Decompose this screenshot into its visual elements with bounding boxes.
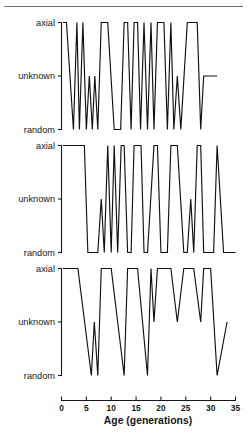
panel-1: axial unknown random <box>18 18 217 135</box>
x-tick-label-25: 25 <box>181 403 191 413</box>
panel-2-ylabel-random: random <box>24 248 55 258</box>
panel-2-ylabel-axial: axial <box>36 141 55 151</box>
panel-3-ylabel-unknown: unknown <box>18 317 55 327</box>
panel-2-ylabel-unknown: unknown <box>18 194 55 204</box>
x-tick-label-15: 15 <box>131 403 141 413</box>
x-tick-label-0: 0 <box>59 403 64 413</box>
panel-3-ylabel-random: random <box>24 371 55 381</box>
panel-3: axial unknown random <box>18 264 227 381</box>
x-tick-label-20: 20 <box>156 403 166 413</box>
panel-2-data-trace <box>63 146 236 253</box>
panel-1-ylabel-unknown: unknown <box>18 71 55 81</box>
x-axis: 05101520253035 Age (generations) <box>59 397 240 427</box>
panel-3-data-trace <box>63 269 227 376</box>
panel-3-ylabel-axial: axial <box>36 264 55 274</box>
figure-canvas: axial unknown random axial unknown rando… <box>0 0 247 448</box>
header-divider <box>4 6 243 7</box>
x-tick-label-10: 10 <box>107 403 117 413</box>
panel-1-data-trace <box>63 23 217 130</box>
panel-1-ylabel-random: random <box>24 125 55 135</box>
panel-1-ylabel-axial: axial <box>36 18 55 28</box>
x-axis-tick-labels: 05101520253035 <box>59 403 240 413</box>
three-panel-line-chart: axial unknown random axial unknown rando… <box>0 0 247 448</box>
x-axis-ticks <box>62 397 236 401</box>
x-tick-label-35: 35 <box>231 403 241 413</box>
x-tick-label-5: 5 <box>84 403 89 413</box>
x-axis-title: Age (generations) <box>104 415 192 426</box>
x-tick-label-30: 30 <box>206 403 216 413</box>
panel-2: axial unknown random <box>18 141 235 258</box>
